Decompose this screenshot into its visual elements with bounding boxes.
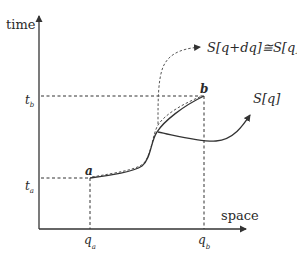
- x-axis-label: space: [221, 208, 259, 223]
- varied-path-label: S[q+dq]≅S[q]: [207, 40, 297, 55]
- action-principle-diagram: time space tb ta qa qb a b S[q+dq]≅S[q] …: [0, 0, 297, 259]
- tick-q-b: qb: [198, 233, 211, 251]
- tick-q-a: qa: [84, 233, 96, 251]
- y-axis-label: time: [6, 17, 36, 32]
- tick-t-b: tb: [25, 93, 35, 109]
- actual-path-label: S[q]: [253, 91, 281, 106]
- point-b-label: b: [200, 82, 208, 96]
- actual-path: [90, 96, 204, 178]
- varied-path-near: [92, 96, 202, 177]
- point-a-label: a: [85, 164, 93, 178]
- tick-t-a: ta: [25, 179, 34, 195]
- varied-path-arrow: [158, 47, 200, 124]
